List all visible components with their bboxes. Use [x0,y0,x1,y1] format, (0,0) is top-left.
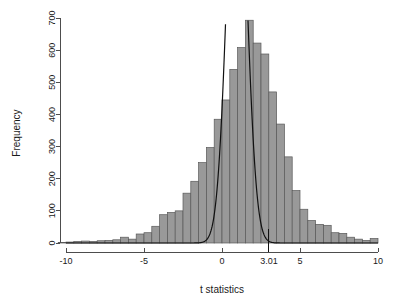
histogram-bar [230,69,238,243]
histogram-bar [277,124,285,243]
histogram-bar [308,221,316,244]
histogram-bar [152,226,160,243]
x-axis-tick-label: 10 [373,256,383,266]
x-axis-title: t statistics [200,284,244,295]
histogram-bar [144,233,152,243]
histogram-bars [58,20,378,243]
x-axis-tick-label: 5 [297,256,302,266]
histogram-bar [339,233,347,243]
histogram-bar [347,237,355,243]
histogram-bar [136,234,144,243]
threshold-label: 3.01 [260,256,278,266]
y-axis-tick-label: 400 [47,107,57,122]
histogram-bar [167,212,175,243]
histogram-bar [292,191,300,243]
histogram-bar [331,233,339,243]
chart-canvas: 0100200300400500600700 -10-503.01510 t s… [0,0,407,303]
histogram-bar [253,43,261,243]
histogram-bar [121,237,129,243]
histogram-bar [238,48,246,243]
y-axis-tick-label: 500 [47,75,57,90]
histogram-bar [269,92,277,243]
histogram-bar [191,181,199,243]
histogram-bar [284,157,292,243]
histogram-bar [175,211,183,243]
y-axis-tick-label: 600 [47,43,57,58]
histogram-bar [316,224,324,243]
histogram-bar [199,163,207,243]
y-axis-tick-label: 200 [47,171,57,186]
x-axis-tick-label: 0 [219,256,224,266]
x-axis-tick-label: -5 [140,256,148,266]
histogram-bar [206,148,214,243]
histogram-bar [370,239,378,244]
histogram-figure: 0100200300400500600700 -10-503.01510 t s… [0,0,407,303]
y-axis-tick-label: 700 [47,10,57,25]
y-axis-tick-label: 100 [47,203,57,218]
histogram-bar [323,225,331,243]
histogram-bar [222,100,230,243]
y-axis-title: Frequency [11,109,22,156]
histogram-bar [300,209,308,243]
histogram-bar [183,193,191,243]
y-axis: 0100200300400500600700 [47,10,60,245]
y-axis-tick-label: 0 [47,240,57,245]
histogram-bar [160,215,168,243]
histogram-bar [261,54,269,243]
x-axis-tick-label: -10 [59,256,72,266]
y-axis-tick-label: 300 [47,139,57,154]
